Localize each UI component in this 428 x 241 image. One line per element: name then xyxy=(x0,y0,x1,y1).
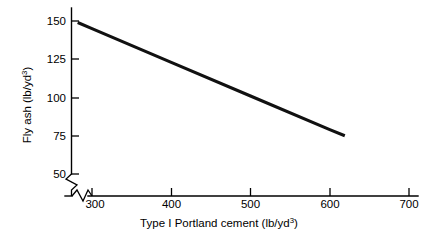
x-tick-label-300: 300 xyxy=(85,198,104,210)
y-axis-tick-labels: 150 125 100 75 50 xyxy=(47,15,66,180)
x-axis-title: Type I Portland cement (lb/yd3) xyxy=(140,216,298,229)
data-series-group xyxy=(78,23,345,136)
svg-text:Type I Portland cement (lb/yd3: Type I Portland cement (lb/yd3) xyxy=(140,216,298,229)
y-tick-label-50: 50 xyxy=(53,168,66,180)
data-line-fly-ash-vs-cement xyxy=(78,23,345,136)
y-axis-title-tail: ) xyxy=(21,67,33,71)
x-axis-title-tail: ) xyxy=(294,217,298,229)
svg-text:Fly ash (lb/yd3): Fly ash (lb/yd3) xyxy=(20,67,33,144)
line-chart-canvas: 150 125 100 75 50 Fly ash (lb/yd3) xyxy=(0,0,428,241)
x-axis-ticks xyxy=(92,188,409,196)
chart-figure: 150 125 100 75 50 Fly ash (lb/yd3) xyxy=(0,0,428,241)
x-tick-label-600: 600 xyxy=(320,198,339,210)
y-tick-label-100: 100 xyxy=(47,92,66,104)
y-tick-label-150: 150 xyxy=(47,15,66,27)
x-tick-label-500: 500 xyxy=(241,198,260,210)
y-tick-label-75: 75 xyxy=(53,130,66,142)
x-axis-tick-labels: 300 400 500 600 700 xyxy=(85,198,418,210)
y-tick-label-125: 125 xyxy=(47,53,66,65)
x-axis-title-base: Type I Portland cement (lb/yd xyxy=(140,217,290,229)
x-tick-label-400: 400 xyxy=(162,198,181,210)
y-axis-title-base: Fly ash (lb/yd xyxy=(21,75,33,143)
y-axis-ticks xyxy=(72,21,80,174)
y-axis-title: Fly ash (lb/yd3) xyxy=(20,67,33,144)
x-tick-label-700: 700 xyxy=(399,198,418,210)
y-axis xyxy=(66,8,77,196)
